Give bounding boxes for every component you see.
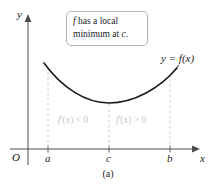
curve-label: y = f(x) — [161, 53, 194, 64]
callout-box: f has a local minimum at c. — [66, 11, 148, 46]
tick-label-c: c — [106, 153, 111, 164]
figure-container: f has a local minimum at c. y = f(x) f'(… — [0, 0, 216, 187]
callout-line-2-period: . — [126, 29, 128, 39]
tick-label-a: a — [45, 153, 51, 164]
deriv-right-rest: '(x) > 0 — [119, 115, 147, 125]
callout-line-2: minimum at c. — [73, 29, 128, 39]
derivative-negative-label: f'(x) < 0 — [58, 116, 88, 126]
callout-line-2-text: minimum at — [73, 29, 122, 39]
y-axis — [25, 14, 32, 165]
curve-label-arg: (x) — [182, 52, 194, 64]
deriv-left-rest: '(x) < 0 — [61, 115, 89, 125]
dashed-guides — [48, 72, 170, 148]
figure-caption: (a) — [0, 168, 216, 179]
function-curve — [44, 63, 177, 103]
tick-label-b: b — [167, 153, 173, 164]
callout-line-1: f has a local — [73, 16, 118, 26]
y-axis-label: y — [17, 9, 22, 20]
derivative-positive-label: f'(x) > 0 — [116, 116, 146, 126]
curve-label-y-equals: y = — [161, 52, 179, 64]
curve-label-leader — [172, 65, 179, 73]
origin-label: O — [12, 152, 20, 163]
callout-line-1-text: has a local — [76, 16, 118, 26]
x-axis-label: x — [200, 153, 205, 164]
